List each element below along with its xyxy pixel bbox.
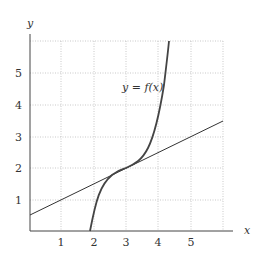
curve-f: [90, 41, 169, 231]
plot-area: 1 2 3 4 5 1 2 3 4 5 x y y = f(x): [0, 0, 259, 254]
svg-text:1: 1: [15, 194, 22, 207]
svg-text:1: 1: [58, 236, 65, 249]
y-axis-label: y: [26, 17, 34, 30]
x-ticks: 1 2 3 4 5: [58, 236, 195, 249]
svg-text:3: 3: [15, 131, 22, 144]
svg-text:5: 5: [15, 67, 22, 80]
x-axis-label: x: [244, 224, 251, 237]
axes: [30, 34, 233, 231]
svg-text:3: 3: [123, 236, 130, 249]
y-ticks: 1 2 3 4 5: [15, 67, 22, 207]
svg-text:4: 4: [15, 99, 22, 112]
svg-text:2: 2: [91, 236, 98, 249]
chart: 1 2 3 4 5 1 2 3 4 5 x y y = f(x): [0, 0, 259, 254]
svg-text:5: 5: [188, 236, 195, 249]
grid: [30, 41, 223, 231]
svg-text:2: 2: [15, 162, 22, 175]
curve-label: y = f(x): [121, 81, 163, 94]
svg-text:4: 4: [155, 236, 162, 249]
